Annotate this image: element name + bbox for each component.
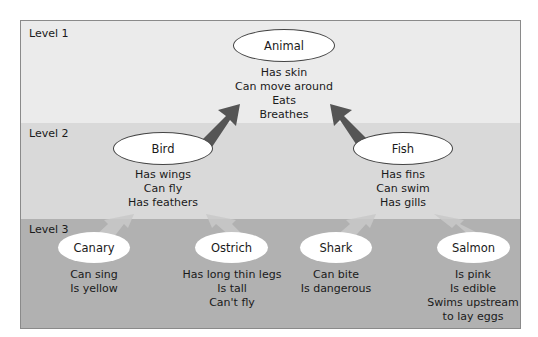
property: Breathes <box>234 108 334 122</box>
property: Has feathers <box>113 196 213 210</box>
property: Has wings <box>113 168 213 182</box>
property: Is yellow <box>44 282 144 296</box>
node-salmon: Salmon <box>437 232 510 263</box>
property: Has fins <box>353 168 453 182</box>
node-shark-properties: Can bite Is dangerous <box>286 268 386 296</box>
property: Eats <box>234 94 334 108</box>
node-fish-label: Fish <box>392 142 414 156</box>
property: Has gills <box>353 196 453 210</box>
property: Can swim <box>353 182 453 196</box>
node-animal-label: Animal <box>264 39 304 53</box>
property: Can sing <box>44 268 144 282</box>
property: Is pink <box>423 268 523 282</box>
node-ostrich-label: Ostrich <box>211 241 252 255</box>
node-shark-label: Shark <box>319 241 352 255</box>
property: Swims upstream <box>423 296 523 310</box>
node-salmon-label: Salmon <box>452 241 495 255</box>
node-canary-properties: Can sing Is yellow <box>44 268 144 296</box>
node-fish: Fish <box>353 132 453 165</box>
property: Can bite <box>286 268 386 282</box>
node-bird-properties: Has wings Can fly Has feathers <box>113 168 213 210</box>
node-fish-properties: Has fins Can swim Has gills <box>353 168 453 210</box>
property: Is dangerous <box>286 282 386 296</box>
property: Can move around <box>234 80 334 94</box>
property: to lay eggs <box>423 310 523 324</box>
property: Is tall <box>172 282 292 296</box>
node-ostrich: Ostrich <box>195 232 268 263</box>
property: Has long thin legs <box>172 268 292 282</box>
node-animal-properties: Has skin Can move around Eats Breathes <box>234 66 334 122</box>
node-salmon-properties: Is pink Is edible Swims upstream to lay … <box>423 268 523 324</box>
node-shark: Shark <box>300 232 372 263</box>
node-canary: Canary <box>58 232 130 263</box>
node-bird: Bird <box>113 132 213 165</box>
property: Is edible <box>423 282 523 296</box>
property: Has skin <box>234 66 334 80</box>
node-animal: Animal <box>233 29 335 62</box>
node-canary-label: Canary <box>74 241 115 255</box>
property: Can fly <box>113 182 213 196</box>
node-ostrich-properties: Has long thin legs Is tall Can't fly <box>172 268 292 310</box>
property: Can't fly <box>172 296 292 310</box>
node-bird-label: Bird <box>152 142 175 156</box>
